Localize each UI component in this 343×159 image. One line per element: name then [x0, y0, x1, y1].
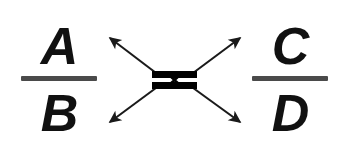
crossover-diagram: A B C D — [0, 0, 343, 159]
arrow-down-right-icon — [189, 85, 240, 122]
crossing-point-icon — [168, 74, 181, 86]
arrow-down-left-icon — [110, 85, 160, 122]
